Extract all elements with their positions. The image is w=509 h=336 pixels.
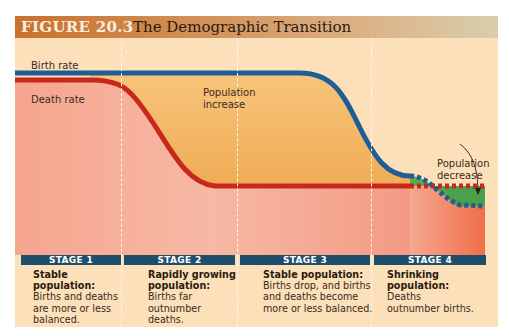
stage-4-bar: STAGE 4 [374,255,486,265]
stage-1-bar: STAGE 1 [21,255,121,265]
stage-divider-1 [121,38,122,327]
stage-2-bar: STAGE 2 [124,255,235,265]
population-decrease-label: Population decrease [437,158,490,182]
stage-4-description: Shrinking population: Deaths outnumber b… [387,269,477,314]
figure-title: The Demographic Transition [133,18,351,36]
population-increase-label: Population increase [203,87,256,111]
transition-diagram [15,38,498,255]
stage-1-description: Stable population: Births and deaths are… [33,269,121,325]
figure-header: FIGURE 20.3 The Demographic Transition [15,16,498,38]
stage-3-description: Stable population: Births drop, and birt… [263,269,373,314]
stage-3-bar: STAGE 3 [240,255,370,265]
figure-number: FIGURE 20.3 [21,18,134,36]
death-rate-label: Death rate [31,94,85,106]
birth-rate-label: Birth rate [31,60,79,72]
stage-2-description: Rapidly growing population: Births far o… [148,269,238,325]
demographic-transition-figure: FIGURE 20.3 The Demographic Transition [15,16,498,327]
